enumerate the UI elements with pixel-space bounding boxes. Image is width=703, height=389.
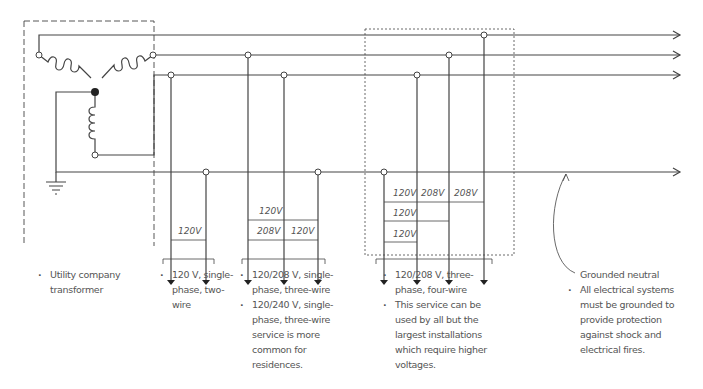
coil-c: [89, 92, 95, 155]
caption-transformer: Utility company transformer: [38, 267, 138, 297]
voltage-label: 120V: [393, 229, 417, 239]
voltage-label: 120V: [393, 208, 417, 218]
voltage-label: 120V: [393, 188, 417, 198]
voltage-label: 120V: [259, 206, 283, 216]
caption-grounded-neutral: Grounded neutral All electrical systems …: [568, 267, 692, 357]
leader-arrow: [553, 174, 575, 273]
coil-b: [102, 55, 153, 78]
phase-line-c: [95, 75, 680, 155]
phase-line-a: [39, 35, 680, 55]
caption-three-phase: 120/208 V, three-phase, four-wire This s…: [383, 267, 501, 372]
voltage-label: 208V: [454, 188, 478, 198]
voltage-label: 120V: [291, 226, 315, 236]
neutral-line: [56, 92, 680, 172]
voltage-label: 208V: [421, 188, 445, 198]
voltage-label: 120V: [178, 226, 202, 236]
voltage-label: 208V: [257, 226, 281, 236]
caption-single-phase: 120/208 V, single-phase, three-wire 120/…: [240, 267, 352, 372]
neutral-node: [91, 88, 99, 96]
ground-icon: [46, 182, 66, 194]
caption-two-wire: 120 V, single-phase, two-wire: [160, 267, 238, 312]
coil-a: [39, 55, 91, 78]
